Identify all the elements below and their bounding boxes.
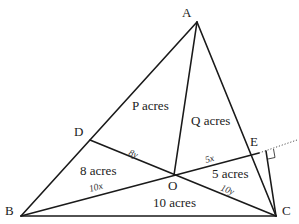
region-label-p: P acres (132, 98, 169, 113)
segment-ao (174, 22, 197, 175)
perpendicular-from-c (266, 151, 276, 216)
region-label-boc: 10 acres (153, 195, 196, 210)
segment-label-oe: 5x (204, 153, 216, 165)
segment-label-bo: 10x (88, 181, 105, 194)
triangle-diagram: A B C D E O P acres Q acres 8 acres 10 a… (0, 0, 299, 224)
vertex-label-d: D (74, 124, 83, 139)
dotted-extension-be (259, 140, 297, 153)
vertex-label-a: A (182, 5, 192, 20)
right-angle-marker (268, 149, 275, 159)
vertex-label-o: O (168, 178, 177, 193)
vertex-label-c: C (282, 203, 291, 218)
vertex-label-e: E (250, 134, 258, 149)
segment-label-oc: 10y (219, 183, 236, 198)
vertex-label-b: B (5, 203, 14, 218)
segment-label-od: 8y (127, 148, 140, 161)
region-label-bod: 8 acres (80, 163, 116, 178)
region-label-coe: 5 acres (212, 166, 248, 181)
region-label-q: Q acres (191, 113, 230, 128)
